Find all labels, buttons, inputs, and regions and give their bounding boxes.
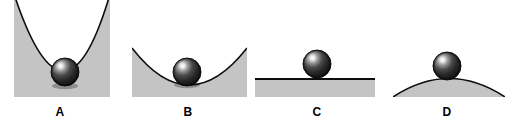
equilibrium-figure: A B C D [0,0,513,123]
panel-c-ball [303,50,331,78]
panel-label-d: D [427,106,467,118]
panel-c-graphic [255,50,375,97]
figure-canvas [0,0,513,123]
panel-label-a: A [40,106,80,118]
panel-c-surface-fill [255,79,375,97]
panel-d-graphic [393,52,505,97]
panel-a-graphic [14,0,110,97]
panel-d-ball [433,52,461,80]
panel-b-graphic [132,48,247,97]
panel-label-c: C [297,106,337,118]
panel-a-ball [51,58,79,89]
panel-label-b: B [168,106,208,118]
panel-b-ball [173,58,201,88]
